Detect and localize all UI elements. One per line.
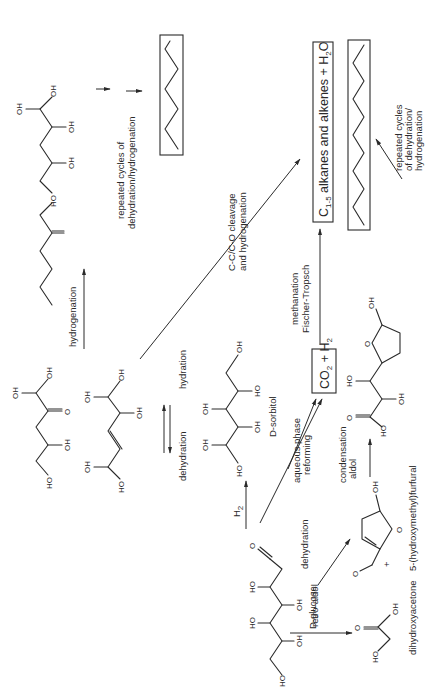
svg-text:OH: OH xyxy=(49,85,58,97)
svg-text:HO: HO xyxy=(253,385,262,397)
svg-text:OH: OH xyxy=(83,391,92,403)
svg-text:OH: OH xyxy=(117,369,126,381)
atom-ho: HO xyxy=(278,675,287,687)
svg-text:HO: HO xyxy=(117,481,126,493)
svg-text:Fischer-Tropsch: Fischer-Tropsch xyxy=(300,265,311,333)
svg-text:dehydration/hydrogenation: dehydration/hydrogenation xyxy=(126,116,137,229)
svg-text:HO: HO xyxy=(379,425,388,437)
hmf-structure: O O OH 5-(hydroxymethyl)furfural xyxy=(351,465,418,577)
svg-text:OH: OH xyxy=(83,461,92,473)
svg-text:OH: OH xyxy=(397,393,406,405)
svg-text:HO: HO xyxy=(45,477,54,489)
svg-text:OH: OH xyxy=(45,367,54,379)
repeated-cycles-top-label: repeated cycles of xyxy=(115,142,126,219)
h2-label: H2 xyxy=(231,505,245,517)
svg-text:O: O xyxy=(395,527,404,533)
svg-text:OH: OH xyxy=(11,387,20,399)
atom-ho: HO xyxy=(248,617,257,629)
svg-text:OH: OH xyxy=(391,603,400,615)
svg-text:HO: HO xyxy=(371,651,380,663)
cleavage-label: C-C/C-O cleavage xyxy=(226,193,237,271)
methanation-label: methanation xyxy=(289,273,300,325)
d-sorbitol-structure: HO OH OH OH HO OH D-sorbitol xyxy=(201,341,278,477)
dehydration-hmf-label: dehydration xyxy=(299,519,310,569)
svg-text:condensation: condensation xyxy=(337,426,348,483)
reaction-scheme: HO OH HO OH HO O D-glucose retro-aldol H… xyxy=(0,0,448,689)
hexitol-structure: HO OH OH OH OH xyxy=(15,85,76,207)
hexane-box xyxy=(160,35,183,155)
svg-text:reforming: reforming xyxy=(301,435,312,475)
dihydroxyacetone-structure: HO O OH dihydroxyacetone xyxy=(353,581,418,663)
syngas-label: CO2 + H2 xyxy=(318,337,334,389)
svg-text:HO: HO xyxy=(49,195,58,207)
long-alkane-box xyxy=(348,40,370,230)
repeated-cycles-right-label: repeated cycles of dehydration/ hydrogen… xyxy=(393,104,424,171)
plus-sign: + xyxy=(381,561,392,567)
hydration-label: hydration xyxy=(177,350,188,389)
aldol-label: aldol xyxy=(347,459,358,479)
ketone-structure-2: HO OH O OH OH xyxy=(11,367,72,489)
svg-text:OH: OH xyxy=(371,481,380,493)
hydrogenation-label: hydrogenation xyxy=(67,287,78,347)
svg-text:HO: HO xyxy=(345,375,354,387)
atom-oh: OH xyxy=(295,635,304,647)
svg-text:OH: OH xyxy=(201,439,210,451)
light-alkanes-label: C1-5 alkanes and alkenes + H2O xyxy=(317,41,333,217)
svg-text:OH: OH xyxy=(67,121,76,133)
svg-text:OH: OH xyxy=(201,403,210,415)
svg-text:OH: OH xyxy=(135,407,144,419)
atom-oh: OH xyxy=(295,599,304,611)
svg-text:O: O xyxy=(63,409,72,415)
svg-text:O: O xyxy=(351,571,360,577)
svg-text:O: O xyxy=(345,415,354,421)
svg-text:OH: OH xyxy=(367,297,376,309)
svg-text:O: O xyxy=(353,625,362,631)
atom-o: O xyxy=(248,543,257,549)
dehydration-label: dehydration xyxy=(177,431,188,481)
svg-text:OH: OH xyxy=(235,341,244,353)
ketone-structure xyxy=(40,203,64,305)
d-sorbitol-label: D-sorbitol xyxy=(267,396,278,437)
svg-text:OH: OH xyxy=(67,157,76,169)
aldol-product-structure: HO O OH HO O OH xyxy=(345,297,406,437)
dihydroxyacetone-label: dihydroxyacetone xyxy=(407,581,418,655)
svg-text:hydrogenation: hydrogenation xyxy=(413,111,424,171)
enol-structure: HO OH OH OH OH xyxy=(83,369,144,493)
svg-text:and hydrogenation: and hydrogenation xyxy=(237,192,248,271)
svg-text:HO: HO xyxy=(235,465,244,477)
atom-ho: HO xyxy=(248,581,257,593)
svg-text:OH: OH xyxy=(253,421,262,433)
svg-text:OH: OH xyxy=(15,103,24,115)
svg-text:O: O xyxy=(363,341,372,347)
svg-text:retro-aldol: retro-aldol xyxy=(309,584,320,627)
retro-aldol-label: retro-aldol xyxy=(309,584,320,627)
hmf-label: 5-(hydroxymethyl)furfural xyxy=(407,465,418,571)
svg-text:OH: OH xyxy=(63,439,72,451)
